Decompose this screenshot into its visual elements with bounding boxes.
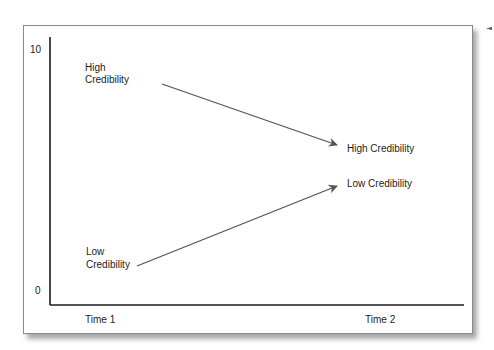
low-credibility-arrow (137, 186, 337, 266)
x-label-time1: Time 1 (85, 314, 115, 326)
chart-plot-area (0, 0, 494, 350)
high-start-label-line1: High (85, 62, 106, 74)
low-end-label: Low Credibility (347, 178, 412, 190)
low-start-label-line1: Low (86, 246, 104, 258)
high-start-label-line2: Credibility (85, 74, 129, 86)
corner-tick-mark-icon (486, 27, 492, 30)
high-end-label: High Credibility (347, 143, 414, 155)
x-label-time2: Time 2 (365, 314, 395, 326)
y-tick-top: 10 (30, 44, 41, 56)
high-credibility-arrow (162, 84, 337, 145)
low-start-label-line2: Credibility (86, 259, 130, 271)
y-tick-bottom: 0 (35, 285, 41, 297)
